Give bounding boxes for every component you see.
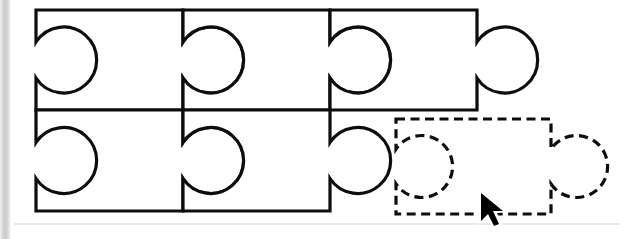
puzzle-canvas [0,0,628,239]
ghost-piece-group [396,119,608,214]
bottom-row [36,110,391,211]
top-row [36,10,538,110]
ghost-piece-dragged[interactable] [396,119,608,214]
puzzle-diagram [0,0,628,239]
